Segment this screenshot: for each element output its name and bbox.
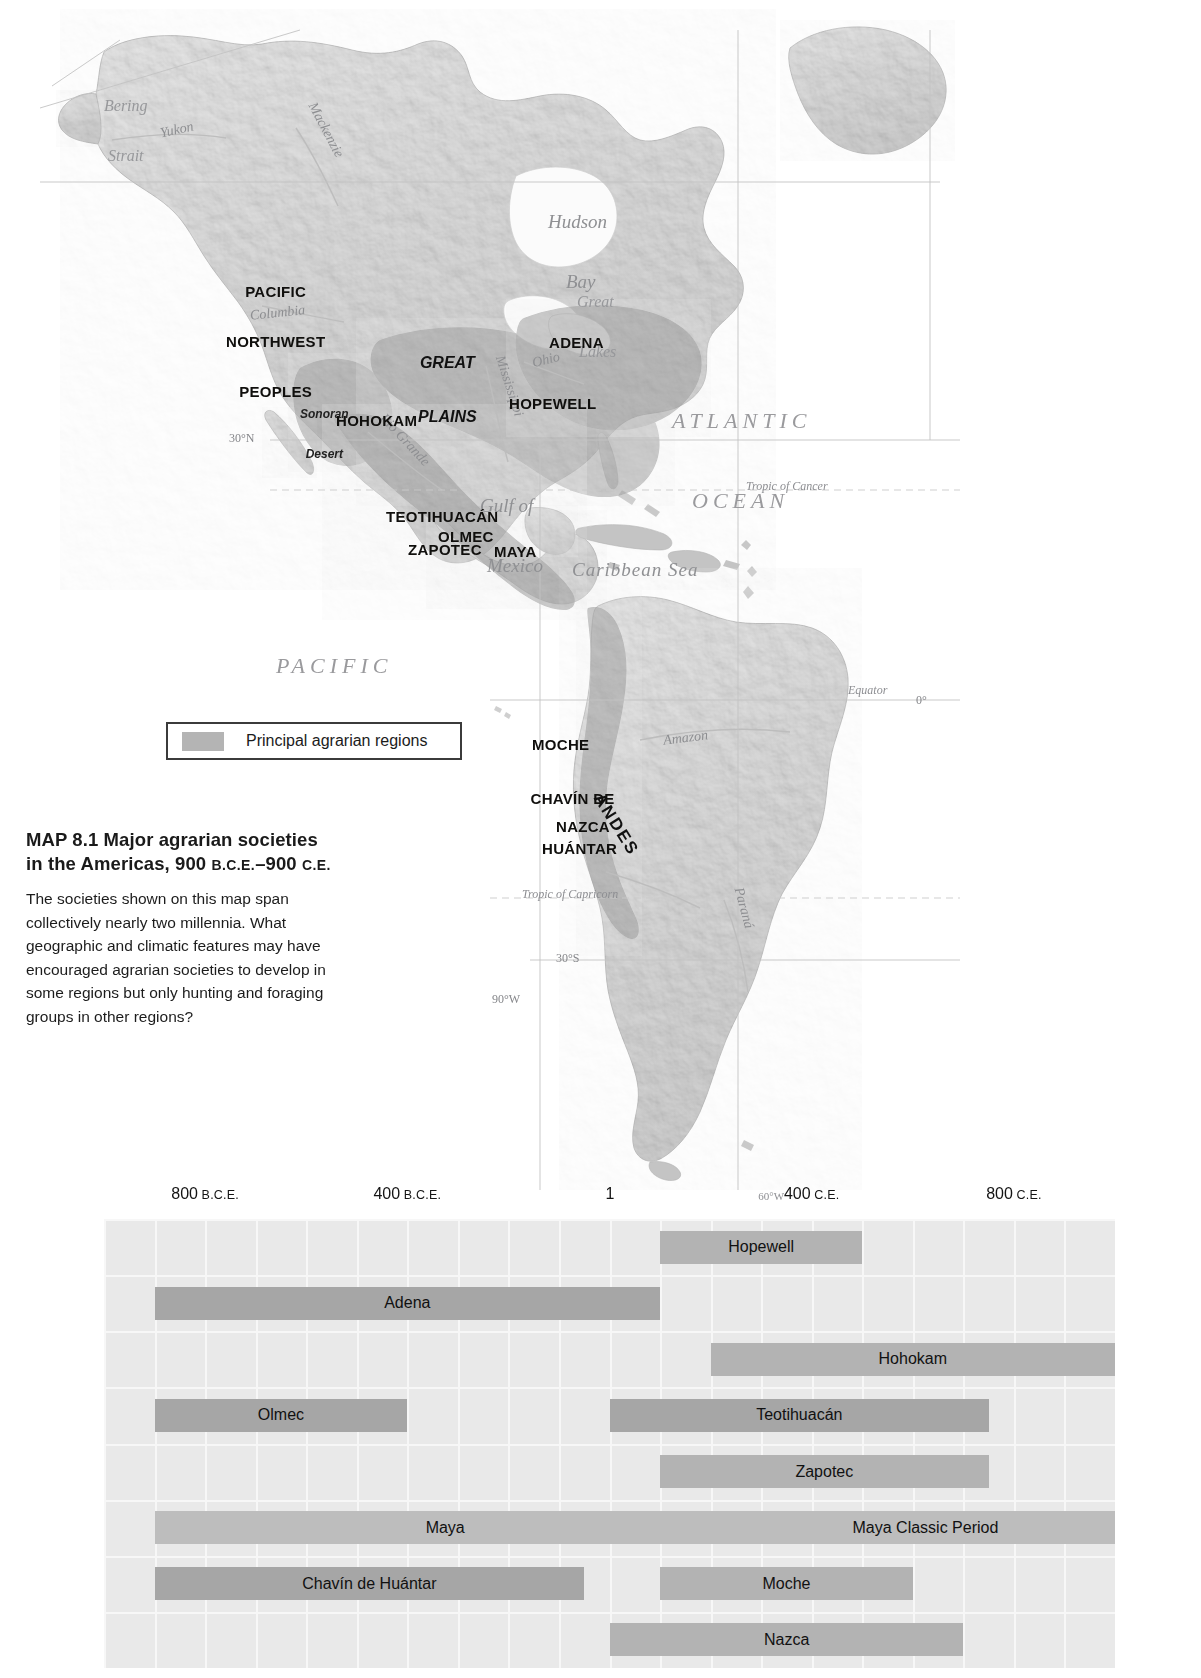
- physio-label-great-plains: GREAT PLAINS: [418, 318, 477, 461]
- graticule-label-60w: 60°W: [758, 1190, 784, 1202]
- graticule-label-tropic-of-capricorn: Tropic of Capricorn: [522, 888, 618, 901]
- timeline-tick-value: 400: [373, 1185, 400, 1202]
- timeline-axis-tick: 400 C.E.: [784, 1185, 840, 1203]
- timeline-bar: Chavín de Huántar: [155, 1567, 585, 1600]
- timeline-gridline-horizontal: [104, 1387, 1115, 1389]
- timeline-bar: Teotihuacán: [610, 1399, 989, 1432]
- society-label-nazca: NAZCA: [556, 819, 610, 836]
- society-label-zapotec: ZAPOTEC: [408, 542, 482, 559]
- society-label-maya: MAYA: [494, 544, 537, 561]
- timeline-tick-value: 800: [986, 1185, 1013, 1202]
- graticule-label-30n: 30°N: [229, 432, 254, 445]
- ocean-label-pacific: PACIFIC OCEAN: [276, 605, 392, 808]
- graticule-label-90w: 90°W: [492, 993, 520, 1006]
- caption-dash: –900: [255, 853, 297, 874]
- timeline-tick-era: C.E.: [811, 1188, 840, 1202]
- timeline-gridline-horizontal: [104, 1275, 1115, 1277]
- society-label-hohokam: HOHOKAM: [336, 413, 417, 430]
- timeline-tick-value: 400: [784, 1185, 811, 1202]
- timeline-bar: Zapotec: [660, 1455, 989, 1488]
- timeline-bar: Adena: [155, 1287, 661, 1320]
- legend-label-agrarian: Principal agrarian regions: [246, 732, 427, 750]
- society-label-moche: MOCHE: [532, 737, 589, 754]
- timeline-tick-value: 1: [606, 1185, 615, 1202]
- timeline-axis: 800 B.C.E.400 B.C.E.1400 C.E.800 C.E.60°…: [0, 1185, 1201, 1219]
- timeline-bar: Maya Classic Period: [736, 1511, 1115, 1544]
- caption-title: MAP 8.1 Major agrarian societies in the …: [26, 828, 336, 876]
- graticule-label-0deg: 0°: [916, 694, 927, 707]
- legend-swatch-agrarian: [182, 732, 224, 751]
- timeline-axis-tick: 800 C.E.: [986, 1185, 1042, 1203]
- timeline-gridline-horizontal: [104, 1219, 1115, 1221]
- timeline-bar: Moche: [660, 1567, 913, 1600]
- timeline-bar: Maya: [155, 1511, 736, 1544]
- graticule-label-equator: Equator: [848, 684, 887, 697]
- ocean-label-atlantic: ATLANTIC OCEAN: [672, 360, 811, 563]
- water-label-bering-strait: Bering Strait: [104, 64, 148, 198]
- timeline-axis-tick: 400 B.C.E.: [373, 1185, 441, 1203]
- timeline-plot: HopewellAdenaHohokamOlmecTeotihuacánZapo…: [104, 1219, 1115, 1668]
- caption-era-ce: C.E.: [302, 857, 331, 873]
- timeline-gridline-horizontal: [104, 1444, 1115, 1446]
- map-caption: MAP 8.1 Major agrarian societies in the …: [26, 828, 336, 1028]
- timeline-gridline-horizontal: [104, 1331, 1115, 1333]
- caption-body: The societies shown on this map span col…: [26, 887, 336, 1028]
- water-label-great-lakes: Great Lakes: [577, 260, 616, 394]
- water-label-caribbean-sea: Caribbean Sea: [572, 560, 698, 580]
- timeline-bar: Olmec: [155, 1399, 408, 1432]
- society-label-hopewell: HOPEWELL: [509, 396, 596, 413]
- timeline-axis-tick: 800 B.C.E.: [171, 1185, 239, 1203]
- map-figure: ATLANTIC OCEAN PACIFIC OCEAN Hudson Bay …: [0, 0, 1201, 1190]
- graticule-label-tropic-of-cancer: Tropic of Cancer: [746, 480, 828, 493]
- timeline-tick-era: B.C.E.: [198, 1188, 239, 1202]
- timeline-tick-era: B.C.E.: [400, 1188, 441, 1202]
- timeline-bar: Hopewell: [660, 1231, 862, 1264]
- graticule-label-30s: 30°S: [556, 952, 579, 965]
- timeline-axis-tick: 1: [606, 1185, 615, 1203]
- timeline-gridline-horizontal: [104, 1556, 1115, 1558]
- map-legend: Principal agrarian regions: [166, 722, 462, 760]
- caption-era-bce: B.C.E.: [211, 857, 255, 873]
- timeline-tick-value: 800: [171, 1185, 198, 1202]
- society-label-adena: ADENA: [549, 335, 604, 352]
- caption-map-number: MAP 8.1: [26, 829, 98, 850]
- timeline-gridline-horizontal: [104, 1500, 1115, 1502]
- society-label-teotihuacan: TEOTIHUACÁN: [386, 509, 498, 526]
- timeline-bar: Nazca: [610, 1623, 963, 1656]
- timeline-tick-era: C.E.: [1013, 1188, 1042, 1202]
- timeline-chart: 800 B.C.E.400 B.C.E.1400 C.E.800 C.E.60°…: [0, 1185, 1201, 1678]
- society-label-pacific-northwest-peoples: PACIFIC NORTHWEST PEOPLES: [226, 250, 325, 435]
- timeline-bar: Hohokam: [711, 1343, 1115, 1376]
- timeline-gridline-horizontal: [104, 1612, 1115, 1614]
